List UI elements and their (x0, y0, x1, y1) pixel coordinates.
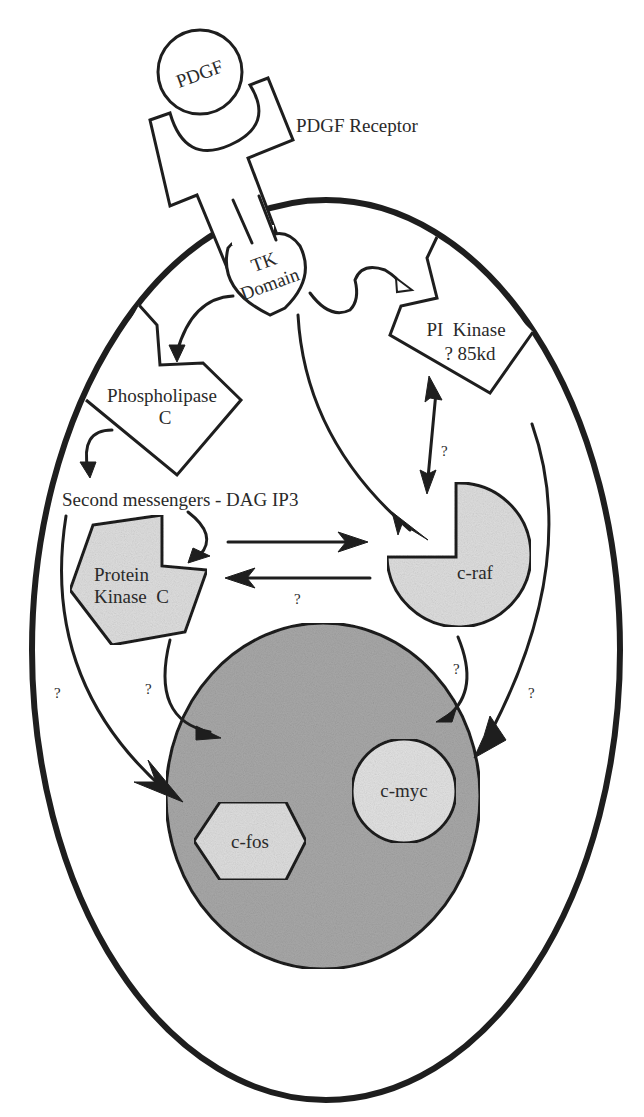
pi-kinase-label-line2: ? 85kd (444, 343, 496, 364)
pikinase-craf-question: ? (441, 443, 448, 459)
pdgf-receptor-label: PDGF Receptor (296, 115, 419, 136)
pdgf-pathway-diagram: TK Domain PDGF PDGF Receptor PI Kinase ?… (0, 0, 644, 1117)
c-raf-shape (387, 483, 531, 627)
phospholipase-c-label-line1: Phospholipase (107, 385, 217, 406)
c-myc-label: c-myc (380, 780, 427, 801)
arrow-tk-to-craf (298, 315, 410, 530)
craf-cmyc-question: ? (453, 661, 460, 677)
craf-to-pkc-question: ? (294, 591, 301, 607)
pi-kinase-shape (390, 237, 533, 393)
second-messengers-label: Second messengers - DAG IP3 (62, 489, 298, 510)
arrow-messengers-to-pkc (188, 512, 207, 555)
arrow-tk-to-plc (177, 296, 233, 352)
messengers-cfos-question: ? (54, 685, 61, 701)
pkc-label-line1: Protein (94, 564, 149, 585)
pkc-cfos-question: ? (145, 681, 152, 697)
arrow-pikinase-craf (428, 392, 436, 478)
phospholipase-c-label-line2: C (159, 407, 172, 428)
pikinase-cmyc-question: ? (528, 685, 535, 701)
arrow-tk-to-pikinase (310, 268, 400, 313)
c-raf-label: c-raf (457, 562, 494, 583)
pkc-label-line2: Kinase C (94, 586, 169, 607)
pi-kinase-label-line1: PI Kinase (426, 319, 505, 340)
c-fos-label: c-fos (231, 831, 269, 852)
